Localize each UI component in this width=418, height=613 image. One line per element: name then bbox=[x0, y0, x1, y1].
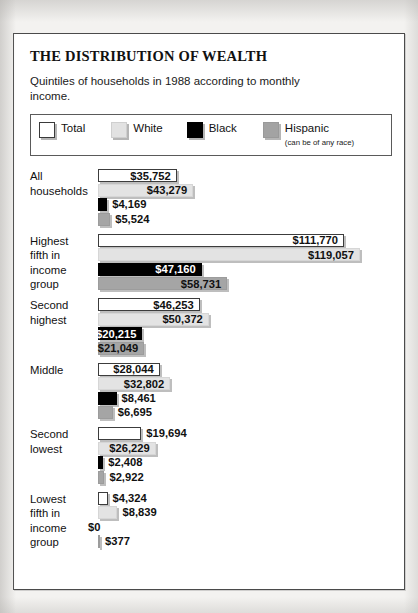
bar-group-label: Secondhighest bbox=[30, 298, 96, 327]
bar-hisp bbox=[98, 535, 100, 548]
legend-note-hispanic: (can be of any race) bbox=[285, 137, 354, 148]
bar-black bbox=[98, 456, 103, 469]
bar-row: $50,372 bbox=[98, 313, 392, 326]
bar-group: Secondhighest$46,253$50,372$20,215$21,04… bbox=[30, 298, 392, 355]
bar-value-label: $47,160 bbox=[155, 263, 195, 276]
bar-row: $6,695 bbox=[98, 406, 392, 419]
bar-value-label: $58,731 bbox=[181, 277, 221, 290]
bar-hisp bbox=[98, 213, 110, 226]
bar-hisp bbox=[98, 471, 104, 484]
bar-group-bars: $46,253$50,372$20,215$21,049 bbox=[98, 298, 392, 355]
bar-row: $8,839 bbox=[98, 506, 392, 519]
bar-value-label: $50,372 bbox=[162, 313, 202, 326]
bar-row: $35,752 bbox=[98, 169, 392, 182]
bar-group: Allhouseholds$35,752$43,279$4,169$5,524 bbox=[30, 169, 392, 226]
bar-value-label: $4,324 bbox=[113, 492, 147, 505]
bar-group-bars: $111,770$119,057$47,160$58,731 bbox=[98, 234, 392, 291]
legend-item-total: Total bbox=[39, 121, 85, 138]
bar-row: $46,253 bbox=[98, 298, 392, 311]
chart-subtitle: Quintiles of households in 1988 accordin… bbox=[30, 74, 315, 103]
bar-total bbox=[98, 492, 108, 505]
bar-group: Lowestfifth inincomegroup$4,324$8,839$0$… bbox=[30, 492, 392, 549]
bar-row: $19,694 bbox=[98, 427, 392, 440]
bar-row: $111,770 bbox=[98, 234, 392, 247]
bar-group-label: Lowestfifth inincomegroup bbox=[30, 492, 96, 550]
bar-row: $119,057 bbox=[98, 248, 392, 261]
bar-value-label: $119,057 bbox=[308, 248, 354, 261]
bar-value-label: $8,839 bbox=[122, 506, 156, 519]
page-title: THE DISTRIBUTION OF WEALTH bbox=[30, 48, 392, 65]
legend-label-hispanic-text: Hispanic bbox=[285, 122, 329, 134]
legend-label-black: Black bbox=[209, 121, 237, 136]
bar-group-bars: $28,044$32,802$8,461$6,695 bbox=[98, 363, 392, 420]
bar-group-label: Highestfifth inincomegroup bbox=[30, 234, 96, 292]
bar-group-bars: $19,694$26,229$2,408$2,922 bbox=[98, 427, 392, 484]
bar-white: $50,372 bbox=[98, 313, 209, 326]
bar-group-bars: $4,324$8,839$0$377 bbox=[98, 492, 392, 549]
legend-label-white: White bbox=[133, 121, 162, 136]
bar-row: $4,169 bbox=[98, 198, 392, 211]
bar-row: $377 bbox=[98, 535, 392, 548]
bar-white: $119,057 bbox=[98, 248, 360, 261]
bar-value-label: $5,524 bbox=[115, 213, 149, 226]
bar-hisp: $21,049 bbox=[98, 342, 144, 355]
legend-swatch-hispanic-icon bbox=[263, 122, 279, 138]
bar-white: $26,229 bbox=[98, 442, 156, 455]
bar-value-label: $46,253 bbox=[153, 298, 193, 311]
legend-swatch-black-icon bbox=[187, 122, 203, 138]
bar-row: $43,279 bbox=[98, 184, 392, 197]
bar-total: $35,752 bbox=[98, 169, 177, 182]
bar-group-label: Middle bbox=[30, 363, 96, 378]
bar-white: $43,279 bbox=[98, 184, 193, 197]
legend: Total White Black Hispanic (can be of an… bbox=[30, 114, 392, 156]
bar-white bbox=[98, 506, 117, 519]
bar-value-label: $20,215 bbox=[96, 327, 136, 340]
bar-black bbox=[98, 392, 117, 405]
bar-row: $47,160 bbox=[98, 263, 392, 276]
bar-total bbox=[98, 427, 141, 440]
bar-group-label: Secondlowest bbox=[30, 427, 96, 456]
bar-group-bars: $35,752$43,279$4,169$5,524 bbox=[98, 169, 392, 226]
legend-item-hispanic: Hispanic (can be of any race) bbox=[263, 121, 354, 148]
bar-row: $32,802 bbox=[98, 377, 392, 390]
legend-swatch-white-icon bbox=[111, 122, 127, 138]
bar-value-label: $32,802 bbox=[124, 377, 164, 390]
bar-value-label: $19,694 bbox=[146, 427, 186, 440]
legend-item-black: Black bbox=[187, 121, 237, 138]
bar-value-label: $28,044 bbox=[113, 363, 153, 376]
bar-black bbox=[98, 198, 107, 211]
bar-black: $20,215 bbox=[98, 327, 142, 340]
legend-label-hispanic: Hispanic (can be of any race) bbox=[285, 121, 354, 148]
bar-hisp bbox=[98, 406, 113, 419]
bar-chart: Allhouseholds$35,752$43,279$4,169$5,524H… bbox=[30, 169, 392, 548]
bar-row: $2,922 bbox=[98, 471, 392, 484]
bar-row: $0 bbox=[98, 521, 392, 534]
bar-row: $26,229 bbox=[98, 442, 392, 455]
legend-label-total: Total bbox=[61, 121, 85, 136]
bar-value-label: $26,229 bbox=[109, 442, 149, 455]
bar-group: Highestfifth inincomegroup$111,770$119,0… bbox=[30, 234, 392, 291]
bar-row: $8,461 bbox=[98, 392, 392, 405]
chart-frame: THE DISTRIBUTION OF WEALTH Quintiles of … bbox=[13, 33, 405, 590]
bar-white: $32,802 bbox=[98, 377, 170, 390]
bar-group: Secondlowest$19,694$26,229$2,408$2,922 bbox=[30, 427, 392, 484]
legend-swatch-total-icon bbox=[39, 122, 55, 138]
bar-total: $28,044 bbox=[98, 363, 160, 376]
bar-group: Middle$28,044$32,802$8,461$6,695 bbox=[30, 363, 392, 420]
bar-row: $21,049 bbox=[98, 342, 392, 355]
bar-value-label: $4,169 bbox=[112, 198, 146, 211]
bar-row: $28,044 bbox=[98, 363, 392, 376]
bar-value-label: $21,049 bbox=[98, 342, 138, 355]
legend-item-white: White bbox=[111, 121, 162, 138]
bar-row: $2,408 bbox=[98, 456, 392, 469]
bar-value-label: $2,922 bbox=[109, 471, 143, 484]
bar-row: $20,215 bbox=[98, 327, 392, 340]
bar-value-label: $111,770 bbox=[293, 234, 338, 247]
bar-total: $111,770 bbox=[98, 234, 344, 247]
bar-black: $47,160 bbox=[98, 263, 202, 276]
bar-row: $5,524 bbox=[98, 213, 392, 226]
bar-row: $58,731 bbox=[98, 277, 392, 290]
bar-value-label: $2,408 bbox=[108, 456, 142, 469]
bar-row: $4,324 bbox=[98, 492, 392, 505]
bar-value-label: $8,461 bbox=[122, 392, 156, 405]
